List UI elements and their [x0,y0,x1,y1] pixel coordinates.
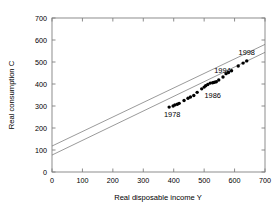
x-tick-label: 100 [76,176,88,185]
y-tick-label: 100 [35,146,47,155]
scatter-plot: 0100200300400500600700 01002003004005006… [0,0,280,207]
x-tick-label: 500 [198,176,210,185]
x-tick-label: 300 [137,176,149,185]
x-tick-label: 400 [168,176,180,185]
annotation-1998: 1998 [239,48,255,57]
x-tick-label: 700 [259,176,271,185]
chart-figure: 0100200300400500600700 01002003004005006… [0,0,280,207]
y-tick-label: 600 [35,36,47,45]
data-point [189,95,192,98]
y-tick-label: 200 [35,124,47,133]
data-point [245,59,248,62]
annotation-1994: 1994 [214,66,230,75]
annotation-1978: 1978 [164,110,180,119]
x-axis-title: Real disposable income Y [114,193,202,202]
y-tick-label: 400 [35,80,47,89]
x-tick-label: 0 [50,176,54,185]
y-tick-label: 700 [35,14,47,23]
y-tick-label: 500 [35,58,47,67]
x-tick-label: 200 [107,176,119,185]
lower-line [52,52,265,155]
fit-lines [52,44,265,155]
y-tick-label: 300 [35,102,47,111]
x-tick-label: 600 [229,176,241,185]
data-points [167,59,248,109]
upper-line [52,44,265,146]
y-tick-label: 0 [43,168,47,177]
data-point [217,78,220,81]
data-point [182,99,185,102]
data-point [241,61,244,64]
data-point [195,91,198,94]
data-point [221,75,224,78]
data-point [167,105,170,108]
y-axis-tick-labels: 0100200300400500600700 [35,14,47,177]
y-axis-title: Real consumption C [7,60,16,129]
annotation-1986: 1986 [204,91,220,100]
data-point [237,64,240,67]
x-axis-tick-labels: 0100200300400500600700 [50,176,271,185]
data-point [177,102,180,105]
data-point [192,94,195,97]
